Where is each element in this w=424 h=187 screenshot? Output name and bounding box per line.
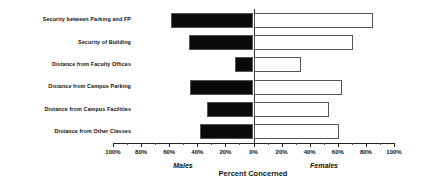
category-label: Distance from Faculty Offices [0, 62, 131, 67]
x-tick-minor [352, 143, 353, 145]
zero-axis-line [254, 9, 255, 143]
x-axis-title: Percent Concerned [219, 169, 288, 178]
x-tick-minor [183, 143, 184, 145]
x-tick-label: 20% [276, 149, 288, 155]
x-tick [141, 143, 142, 147]
bar-males [235, 57, 253, 72]
x-tick [169, 143, 170, 147]
x-tick-minor [380, 143, 381, 145]
x-tick-label: 100% [105, 149, 120, 155]
bar-females [254, 57, 302, 72]
x-tick-label: 40% [191, 149, 203, 155]
x-tick-minor [211, 143, 212, 145]
x-tick [310, 143, 311, 147]
bar-males [190, 80, 253, 95]
x-tick [338, 143, 339, 147]
x-tick [366, 143, 367, 147]
bar-row [113, 13, 394, 28]
bar-females [254, 35, 354, 50]
bar-males [207, 102, 253, 117]
x-tick-label: 100% [386, 149, 401, 155]
bar-row [113, 80, 394, 95]
bar-females [254, 13, 373, 28]
x-tick-label: 80% [360, 149, 372, 155]
bar-females [254, 102, 330, 117]
x-tick-minor [268, 143, 269, 145]
x-tick-minor [239, 143, 240, 145]
category-label: Security of Building [0, 40, 131, 45]
survey-bar-chart: Security between Parking and FPSecurity … [0, 0, 424, 187]
x-tick [113, 143, 114, 147]
x-tick-minor [324, 143, 325, 145]
category-label: Distance from Campus Parking [0, 84, 131, 89]
bar-males [189, 35, 254, 50]
category-label: Distance from Other Classes [0, 129, 131, 134]
bar-row [113, 124, 394, 139]
category-label: Security between Parking and FP [0, 17, 131, 22]
x-tick-label: 20% [219, 149, 231, 155]
females-group-label: Females [310, 162, 338, 169]
x-tick-minor [296, 143, 297, 145]
x-tick-minor [127, 143, 128, 145]
bar-females [254, 80, 343, 95]
bar-females [254, 124, 340, 139]
x-tick-label: 80% [135, 149, 147, 155]
x-tick-label: 40% [304, 149, 316, 155]
x-tick [254, 143, 255, 147]
category-label: Distance from Campus Facilities [0, 107, 131, 112]
bar-row [113, 35, 394, 50]
x-tick-label: 60% [163, 149, 175, 155]
bar-males [200, 124, 253, 139]
x-tick [225, 143, 226, 147]
category-labels: Security between Parking and FPSecurity … [0, 0, 131, 140]
males-group-label: Males [173, 162, 192, 169]
x-tick [282, 143, 283, 147]
x-tick-label: 0% [249, 149, 258, 155]
bar-row [113, 57, 394, 72]
plot-area [113, 9, 394, 143]
x-tick [197, 143, 198, 147]
bar-row [113, 102, 394, 117]
x-tick-minor [155, 143, 156, 145]
x-tick-label: 60% [332, 149, 344, 155]
bar-males [171, 13, 254, 28]
x-tick [394, 143, 395, 147]
